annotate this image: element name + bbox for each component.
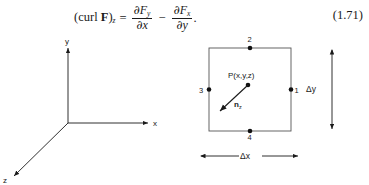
delta-y-dimension-label: Δy [306,84,317,94]
normal-vector-subscript: z [239,104,242,110]
equation-row: (curl F)z = ∂Fy ∂x − ∂Fx ∂y . (1.71) [0,2,369,34]
node-2-label: 2 [248,35,252,44]
z-axis-label: z [3,176,7,185]
node-4-label: 4 [248,133,252,142]
delta-x-dimension-label: Δx [240,151,251,161]
node-1-dot [289,87,294,92]
curl-equation: (curl F)z = ∂Fy ∂x − ∂Fx ∂y . [74,4,197,32]
partial-fx-partial-y-fraction: ∂Fx ∂y [172,4,193,32]
x-symbol-denominator: x [142,18,147,32]
curl-z-subscript: z [113,16,116,25]
point-p-label: P(x,y,z) [228,71,255,80]
minus-operator: − [158,12,165,25]
node-2-dot [248,46,253,51]
node-3-label: 3 [199,86,203,95]
y-axis-label: y [65,37,69,46]
coordinate-axes-figure: y x z [0,34,186,185]
fraction-numerator: ∂Fy [132,4,153,18]
partial-fy-partial-x-fraction: ∂Fy ∂x [132,4,153,32]
equation-lhs: (curl F)z [74,11,115,25]
equation-number: (1.71) [333,8,363,23]
equals-sign: = [119,12,126,25]
square-outline [209,48,291,131]
y-symbol-denominator: y [182,18,187,32]
equation-period: . [193,12,196,25]
fraction-denominator: ∂x [132,18,153,32]
normal-vector-label: nz [234,100,242,110]
z-axis-line [14,123,68,176]
node-3-dot [207,87,212,92]
figure-page: (curl F)z = ∂Fy ∂x − ∂Fx ∂y . (1.71) [0,0,369,185]
surface-element-svg: 2 4 3 1 P(x,y,z) nz Δy Δx [186,34,369,185]
fraction-numerator: ∂Fx [172,4,193,18]
curl-operator-text: curl [78,10,97,24]
fraction-denominator: ∂y [172,18,193,32]
surface-element-figure: 2 4 3 1 P(x,y,z) nz Δy Δx [186,34,369,185]
f-symbol-numerator: F [180,3,187,17]
x-axis-label: x [153,119,157,128]
f-subscript-numerator: x [187,9,190,18]
f-symbol-numerator: F [140,3,147,17]
coordinate-axes-svg: y x z [0,34,186,185]
f-subscript-numerator: y [147,9,150,18]
node-1-label: 1 [295,86,299,95]
